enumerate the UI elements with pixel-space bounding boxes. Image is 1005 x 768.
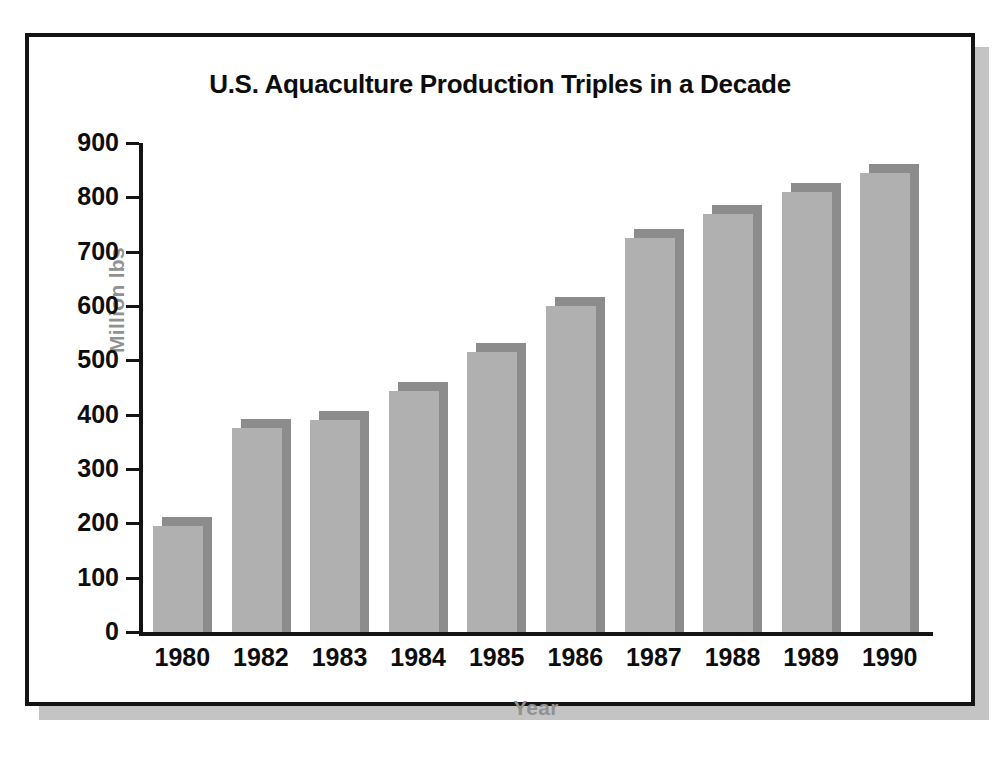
bar-side-face bbox=[753, 205, 762, 632]
x-axis-tick-label: 1989 bbox=[772, 643, 851, 672]
y-axis-tick bbox=[126, 414, 139, 417]
bar-side-face bbox=[675, 229, 684, 632]
x-axis-tick-label: 1985 bbox=[457, 643, 536, 672]
y-axis-tick-label: 600 bbox=[45, 293, 119, 318]
bar-slot bbox=[300, 143, 379, 632]
bar-front-face bbox=[389, 391, 439, 632]
bar-side-face bbox=[517, 343, 526, 632]
plot-area: Million lbs 0100200300400500600700800900… bbox=[139, 143, 929, 632]
bar-1986[interactable] bbox=[546, 306, 596, 632]
bar-front-face bbox=[860, 173, 910, 632]
bar-1984[interactable] bbox=[389, 391, 439, 632]
bar-slot bbox=[615, 143, 694, 632]
bar-side-face bbox=[203, 517, 212, 632]
x-axis-tick-label: 1982 bbox=[222, 643, 301, 672]
x-axis-tick-label: 1987 bbox=[615, 643, 694, 672]
y-axis-tick-label: 200 bbox=[45, 510, 119, 535]
bar-top-face bbox=[319, 411, 369, 420]
bar-front-face bbox=[467, 352, 517, 632]
bar-side-face bbox=[832, 183, 841, 632]
y-axis-tick-labels: 0100200300400500600700800900 bbox=[31, 143, 119, 632]
y-axis-tick-label: 0 bbox=[45, 619, 119, 644]
x-axis-tick-label: 1984 bbox=[379, 643, 458, 672]
bar-front-face bbox=[232, 428, 282, 632]
y-axis-tick bbox=[126, 631, 139, 634]
y-axis-tick-label: 800 bbox=[45, 184, 119, 209]
chart-title: U.S. Aquaculture Production Triples in a… bbox=[29, 69, 971, 100]
bar-slot bbox=[143, 143, 222, 632]
y-axis-tick-label: 100 bbox=[45, 565, 119, 590]
x-axis-tick-label: 1986 bbox=[536, 643, 615, 672]
bar-slot bbox=[222, 143, 301, 632]
y-axis-tick bbox=[126, 468, 139, 471]
y-axis-tick bbox=[126, 251, 139, 254]
y-axis-tick-label: 400 bbox=[45, 402, 119, 427]
y-axis-tick bbox=[126, 359, 139, 362]
bar-1982[interactable] bbox=[232, 428, 282, 632]
bar-slot bbox=[850, 143, 929, 632]
bar-top-face bbox=[791, 183, 841, 192]
y-axis-tick bbox=[126, 142, 139, 145]
y-axis-tick bbox=[126, 305, 139, 308]
y-axis-tick-label: 700 bbox=[45, 239, 119, 264]
bar-top-face bbox=[634, 229, 684, 238]
bar-top-face bbox=[162, 517, 212, 526]
bar-series bbox=[143, 143, 929, 632]
bar-1988[interactable] bbox=[703, 214, 753, 632]
x-axis-title: Year bbox=[143, 696, 929, 720]
bar-front-face bbox=[782, 192, 832, 632]
figure-container: U.S. Aquaculture Production Triples in a… bbox=[25, 33, 975, 706]
x-axis-tick-labels: 1980198219831984198519861987198819891990 bbox=[143, 643, 929, 683]
x-axis-tick-label: 1990 bbox=[850, 643, 929, 672]
bar-slot bbox=[457, 143, 536, 632]
bar-front-face bbox=[153, 526, 203, 632]
bar-side-face bbox=[360, 411, 369, 632]
bar-front-face bbox=[546, 306, 596, 632]
y-axis-tick-label: 500 bbox=[45, 347, 119, 372]
bar-top-face bbox=[555, 297, 605, 306]
bar-side-face bbox=[439, 382, 448, 632]
bar-slot bbox=[536, 143, 615, 632]
y-axis-tick-label: 900 bbox=[45, 130, 119, 155]
bar-side-face bbox=[596, 297, 605, 632]
bar-top-face bbox=[398, 382, 448, 391]
bar-side-face bbox=[910, 164, 919, 632]
x-axis-tick-label: 1988 bbox=[693, 643, 772, 672]
y-axis-tick-label: 300 bbox=[45, 456, 119, 481]
figure-frame: U.S. Aquaculture Production Triples in a… bbox=[25, 33, 975, 706]
bar-1987[interactable] bbox=[625, 238, 675, 632]
y-axis-tick bbox=[126, 196, 139, 199]
bar-1989[interactable] bbox=[782, 192, 832, 632]
bar-slot bbox=[693, 143, 772, 632]
bar-top-face bbox=[712, 205, 762, 214]
bar-1983[interactable] bbox=[310, 420, 360, 632]
bar-front-face bbox=[625, 238, 675, 632]
bar-top-face bbox=[241, 419, 291, 428]
x-axis-tick-label: 1980 bbox=[143, 643, 222, 672]
bar-1980[interactable] bbox=[153, 526, 203, 632]
bar-1990[interactable] bbox=[860, 173, 910, 632]
y-axis-tick bbox=[126, 577, 139, 580]
y-axis-tick bbox=[126, 522, 139, 525]
x-axis-tick-label: 1983 bbox=[300, 643, 379, 672]
bar-front-face bbox=[310, 420, 360, 632]
bar-slot bbox=[379, 143, 458, 632]
bar-1985[interactable] bbox=[467, 352, 517, 632]
bar-top-face bbox=[869, 164, 919, 173]
bar-top-face bbox=[476, 343, 526, 352]
bar-side-face bbox=[282, 419, 291, 632]
x-axis-line bbox=[139, 632, 933, 636]
bar-front-face bbox=[703, 214, 753, 632]
bar-slot bbox=[772, 143, 851, 632]
